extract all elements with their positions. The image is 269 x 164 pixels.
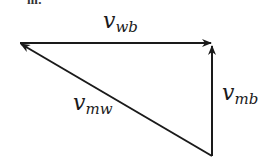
label-v-wb: vwb	[103, 8, 138, 36]
label-symbol: v	[73, 90, 85, 115]
label-v-mw: vmw	[73, 90, 113, 118]
label-subscript: wb	[115, 18, 137, 36]
label-symbol: v	[222, 80, 234, 105]
label-v-mb: vmb	[222, 80, 258, 108]
label-subscript: mb	[234, 90, 258, 108]
label-symbol: v	[103, 8, 115, 33]
vector-mw-arrow	[21, 44, 212, 156]
label-subscript: mw	[85, 100, 112, 118]
